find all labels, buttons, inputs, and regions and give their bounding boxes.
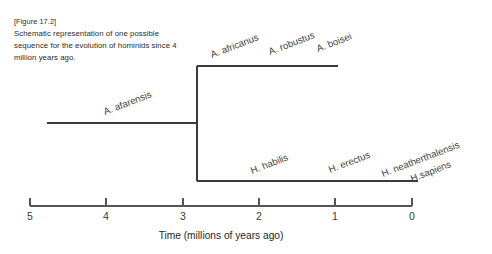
taxon-label-habilis: H. habilis [249,151,290,175]
taxon-label-boisei: A. boisei [315,30,353,53]
axis-tick-label-2: 2 [256,210,262,222]
taxon-label-erectus: H. erectus [327,149,372,175]
taxon-label-robustus: A. robustus [267,29,316,57]
axis-tick-label-4: 4 [103,210,109,222]
axis-title-time: Time (millions of years ago) [159,230,284,241]
axis-tick-label-3: 3 [180,210,186,222]
phylogenetic-tree-diagram: A. afarensis A. africanus A. robustus A.… [0,0,492,254]
axis-tick-label-5: 5 [27,210,33,222]
axis-tick-label-0: 0 [409,210,415,222]
taxon-label-africanus: A. africanus [209,31,260,59]
figure-container: [Figure 17.2] Schematic representation o… [0,0,492,254]
axis-tick-label-1: 1 [332,210,338,222]
taxon-label-afarensis: A. afarensis [102,88,153,116]
